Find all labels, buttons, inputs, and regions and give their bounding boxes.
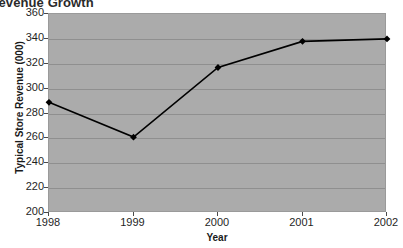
x-tick-mark <box>133 212 134 216</box>
y-tick-mark <box>44 187 48 188</box>
series-polyline <box>49 39 387 137</box>
x-tick-mark <box>302 212 303 216</box>
y-tick-mark <box>44 13 48 14</box>
plot-area <box>48 13 386 212</box>
y-tick-label: 260 <box>18 131 44 142</box>
x-tick-label: 2002 <box>356 216 403 228</box>
series-line-chart <box>49 14 387 213</box>
y-tick-mark <box>44 38 48 39</box>
y-tick-mark <box>44 113 48 114</box>
y-tick-mark <box>44 88 48 89</box>
y-tick-label: 220 <box>18 181 44 192</box>
x-axis-title: Year <box>48 232 386 243</box>
chart-title: e Revenue Growth <box>0 0 94 10</box>
data-point-marker <box>46 99 53 106</box>
x-tick-label: 2001 <box>272 216 332 228</box>
data-point-marker <box>299 38 306 45</box>
x-tick-label: 2000 <box>187 216 247 228</box>
y-tick-label: 360 <box>18 7 44 18</box>
y-tick-mark <box>44 162 48 163</box>
y-tick-label: 240 <box>18 156 44 167</box>
x-tick-mark <box>386 212 387 216</box>
data-point-marker <box>384 35 391 42</box>
y-tick-mark <box>44 63 48 64</box>
x-tick-label: 1998 <box>18 216 78 228</box>
x-tick-label: 1999 <box>103 216 163 228</box>
y-tick-mark <box>44 137 48 138</box>
x-tick-mark <box>48 212 49 216</box>
y-tick-label: 320 <box>18 57 44 68</box>
y-tick-label: 280 <box>18 107 44 118</box>
x-tick-mark <box>217 212 218 216</box>
series-markers <box>46 35 391 140</box>
y-tick-label: 340 <box>18 32 44 43</box>
y-tick-label: 300 <box>18 82 44 93</box>
